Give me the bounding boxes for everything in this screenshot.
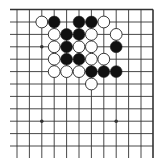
black-stone[interactable] [73,29,85,41]
black-stone[interactable] [110,66,122,78]
white-stone[interactable] [36,16,48,28]
white-stone[interactable] [86,29,98,41]
star-point [40,119,44,123]
white-stone[interactable] [48,66,60,78]
black-stone[interactable] [110,41,122,53]
white-stone[interactable] [73,41,85,53]
white-stone[interactable] [98,53,110,65]
black-stone[interactable] [73,16,85,28]
black-stone[interactable] [86,16,98,28]
white-stone[interactable] [48,29,60,41]
white-stone[interactable] [86,41,98,53]
black-stone[interactable] [61,29,73,41]
white-stone[interactable] [48,53,60,65]
black-stone[interactable] [61,41,73,53]
go-board [0,0,163,160]
white-stone[interactable] [61,66,73,78]
white-stone[interactable] [110,29,122,41]
white-stone[interactable] [73,66,85,78]
black-stone[interactable] [48,16,60,28]
star-point [40,45,44,49]
white-stone[interactable] [48,41,60,53]
white-stone[interactable] [86,78,98,90]
black-stone[interactable] [61,53,73,65]
star-point [114,119,118,123]
black-stone[interactable] [86,66,98,78]
black-stone[interactable] [73,53,85,65]
white-stone[interactable] [98,16,110,28]
white-stone[interactable] [86,53,98,65]
black-stone[interactable] [98,66,110,78]
